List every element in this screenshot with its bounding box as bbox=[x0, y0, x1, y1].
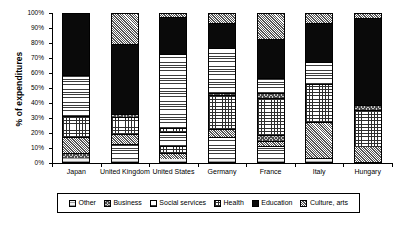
legend-label: Business bbox=[113, 199, 141, 207]
legend-label: Education bbox=[261, 199, 292, 207]
legend-item-business[interactable]: Business bbox=[104, 199, 142, 207]
bar-segment bbox=[63, 13, 89, 75]
x-axis-tick bbox=[343, 163, 344, 167]
x-axis-label-japan: Japan bbox=[67, 168, 86, 175]
bar-italy[interactable] bbox=[305, 13, 333, 163]
bar-segment bbox=[112, 159, 138, 162]
y-axis-tick: 100% bbox=[49, 13, 53, 14]
bar-segment bbox=[112, 13, 138, 44]
y-axis-tick-label: 50% bbox=[31, 85, 44, 92]
bar-united-states[interactable] bbox=[159, 13, 187, 163]
bar-segment bbox=[160, 132, 186, 146]
bar-japan[interactable] bbox=[62, 13, 90, 163]
y-axis-tick-label: 20% bbox=[31, 130, 44, 137]
legend-swatch-icon bbox=[214, 200, 221, 207]
bar-segment bbox=[209, 48, 235, 93]
bar-segment bbox=[258, 98, 284, 136]
legend-label: Other bbox=[78, 199, 96, 207]
bar-segment bbox=[258, 146, 284, 160]
bar-segment bbox=[209, 13, 235, 23]
legend-item-culture-arts[interactable]: Culture, arts bbox=[300, 199, 348, 207]
bar-segment bbox=[306, 122, 332, 158]
y-axis-tick-label: 90% bbox=[31, 25, 44, 32]
y-axis-tick: 50% bbox=[49, 88, 53, 89]
x-axis-tick bbox=[198, 163, 199, 167]
bar-segment bbox=[160, 17, 186, 55]
bar-segment bbox=[160, 54, 186, 128]
bar-segment bbox=[355, 110, 381, 148]
y-axis-tick: 40% bbox=[49, 103, 53, 104]
bar-segment bbox=[306, 13, 332, 23]
x-axis-tick bbox=[392, 163, 393, 167]
bar-segment bbox=[209, 23, 235, 49]
y-axis-tick: 70% bbox=[49, 58, 53, 59]
legend-swatch-icon bbox=[150, 200, 157, 207]
legend-label: Social services bbox=[159, 199, 206, 207]
bar-segment bbox=[63, 153, 89, 158]
y-axis-title: % of expenditures bbox=[14, 29, 24, 149]
legend-item-social-services[interactable]: Social services bbox=[150, 199, 206, 207]
bar-united-kingdom[interactable] bbox=[111, 13, 139, 163]
bar-segment bbox=[355, 147, 381, 162]
x-axis-tick bbox=[149, 163, 150, 167]
x-axis-tick bbox=[52, 163, 53, 167]
bar-segment bbox=[306, 84, 332, 122]
legend-item-other[interactable]: Other bbox=[69, 199, 96, 207]
x-axis-tick bbox=[101, 163, 102, 167]
bar-segment bbox=[258, 39, 284, 78]
x-axis-tick bbox=[246, 163, 247, 167]
x-axis-label-hungary: Hungary bbox=[354, 168, 380, 175]
bar-segment bbox=[306, 158, 332, 160]
y-axis-tick: 10% bbox=[49, 148, 53, 149]
bar-segment bbox=[209, 129, 235, 137]
x-axis-line bbox=[52, 163, 393, 164]
bar-segment bbox=[63, 116, 89, 137]
bar-segment bbox=[160, 128, 186, 133]
bar-segment bbox=[112, 134, 138, 145]
bar-france[interactable] bbox=[257, 13, 285, 163]
bar-segment bbox=[112, 117, 138, 134]
bar-segment bbox=[355, 18, 381, 105]
x-axis-label-united-kingdom: United Kingdom bbox=[100, 168, 150, 175]
plot-area: 0%10%20%30%40%50%60%70%80%90%100% bbox=[52, 13, 392, 163]
y-axis-tick: 30% bbox=[49, 118, 53, 119]
bar-segment bbox=[112, 114, 138, 117]
bar-segment bbox=[258, 159, 284, 162]
x-axis-tick bbox=[295, 163, 296, 167]
x-axis-label-germany: Germany bbox=[208, 168, 237, 175]
y-axis-tick-label: 30% bbox=[31, 115, 44, 122]
y-axis-tick: 60% bbox=[49, 73, 53, 74]
bar-segment bbox=[160, 146, 186, 154]
chart-container: % of expenditures 0%10%20%30%40%50%60%70… bbox=[0, 0, 413, 228]
y-axis-tick-label: 40% bbox=[31, 100, 44, 107]
bar-segment bbox=[306, 62, 332, 85]
bar-segment bbox=[160, 153, 186, 159]
legend-swatch-icon bbox=[252, 200, 259, 207]
bar-segment bbox=[112, 144, 138, 159]
legend-swatch-icon bbox=[69, 200, 76, 207]
bar-segment bbox=[63, 137, 89, 154]
y-axis-tick-label: 80% bbox=[31, 40, 44, 47]
bar-segment bbox=[63, 75, 89, 116]
bar-segment bbox=[258, 135, 284, 141]
x-axis-label-france: France bbox=[260, 168, 282, 175]
bar-germany[interactable] bbox=[208, 13, 236, 163]
bar-segment bbox=[258, 78, 284, 93]
bar-segment bbox=[209, 93, 235, 95]
bar-segment bbox=[63, 158, 89, 163]
y-axis-tick-label: 0% bbox=[35, 160, 44, 167]
x-axis-label-italy: Italy bbox=[313, 168, 326, 175]
legend-item-health[interactable]: Health bbox=[214, 199, 244, 207]
bar-hungary[interactable] bbox=[354, 13, 382, 163]
legend-item-education[interactable]: Education bbox=[252, 199, 293, 207]
bar-segment bbox=[160, 159, 186, 162]
y-axis-tick-label: 10% bbox=[31, 145, 44, 152]
y-axis-tick-label: 70% bbox=[31, 55, 44, 62]
y-axis-tick: 20% bbox=[49, 133, 53, 134]
y-axis-tick: 90% bbox=[49, 28, 53, 29]
bar-segment bbox=[209, 159, 235, 162]
bar-segment bbox=[209, 95, 235, 130]
bar-segment bbox=[112, 44, 138, 115]
bar-segment bbox=[258, 13, 284, 39]
chart-legend: OtherBusinessSocial servicesHealthEducat… bbox=[57, 193, 360, 213]
